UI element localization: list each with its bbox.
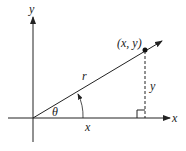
diagram-canvas: y x (x, y) r θ x y	[0, 0, 186, 151]
right-angle-mark	[137, 110, 145, 118]
y-axis-label: y	[28, 2, 35, 16]
angle-label: θ	[52, 105, 58, 119]
polar-diagram: y x (x, y) r θ x y	[0, 0, 186, 151]
adjacent-label: x	[84, 120, 91, 134]
point-label: (x, y)	[117, 36, 142, 50]
radius-label: r	[82, 69, 87, 83]
opposite-label: y	[149, 79, 156, 93]
point-marker	[143, 48, 148, 53]
angle-arc	[78, 94, 83, 118]
x-axis-label: x	[171, 111, 178, 125]
